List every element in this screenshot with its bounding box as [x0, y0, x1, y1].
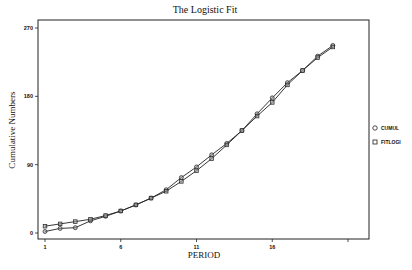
x-tick-label: 16: [269, 244, 275, 250]
legend-fitlogi-square-icon: [373, 140, 377, 144]
data-point-circle-icon: [179, 176, 183, 180]
data-point-square-icon: [255, 114, 259, 118]
data-point-square-icon: [270, 101, 274, 105]
data-point-square-icon: [195, 169, 199, 173]
legend-cumul-label: CUMUL: [381, 125, 399, 131]
data-point-square-icon: [301, 69, 305, 73]
x-axis: 161116: [43, 239, 348, 250]
data-point-square-icon: [104, 214, 108, 218]
y-tick-label: 90: [27, 162, 33, 168]
data-point-square-icon: [74, 220, 78, 224]
data-point-circle-icon: [58, 226, 62, 230]
data-point-square-icon: [89, 218, 93, 222]
y-axis-label: Cumulative Numbers: [7, 91, 17, 169]
data-point-square-icon: [225, 143, 229, 147]
data-point-circle-icon: [210, 153, 214, 157]
data-point-square-icon: [119, 209, 123, 213]
data-point-square-icon: [240, 129, 244, 133]
series-layer: [43, 43, 335, 233]
x-tick-label: 6: [119, 244, 122, 250]
legend-cumul-circle-icon: [373, 126, 377, 130]
y-tick-label: 270: [24, 25, 33, 31]
data-point-circle-icon: [270, 96, 274, 100]
data-point-square-icon: [58, 222, 62, 226]
data-point-square-icon: [180, 180, 184, 184]
data-point-circle-icon: [43, 229, 47, 233]
y-axis: 090180270: [24, 25, 38, 236]
data-point-square-icon: [43, 224, 47, 228]
data-point-square-icon: [286, 83, 290, 87]
data-point-square-icon: [164, 189, 168, 193]
legend: CUMUL FITLOGI: [373, 125, 402, 145]
data-point-square-icon: [134, 203, 138, 207]
data-point-circle-icon: [195, 165, 199, 169]
plot-frame: [38, 20, 369, 239]
chart-title: The Logistic Fit: [173, 4, 238, 15]
data-point-square-icon: [149, 196, 153, 200]
data-point-square-icon: [210, 157, 214, 161]
series-line-cumul: [45, 46, 333, 232]
y-tick-label: 0: [30, 230, 33, 236]
x-axis-label: PERIOD: [188, 250, 221, 260]
logistic-fit-chart: The Logistic Fit 090180270 161116 Cumula…: [0, 0, 412, 270]
legend-fitlogi-label: FITLOGI: [381, 139, 401, 145]
y-tick-label: 180: [24, 93, 33, 99]
series-line-fitlogi: [45, 47, 333, 226]
data-point-square-icon: [316, 56, 320, 60]
data-point-circle-icon: [73, 226, 77, 230]
data-point-square-icon: [331, 45, 335, 49]
x-tick-label: 1: [43, 244, 46, 250]
